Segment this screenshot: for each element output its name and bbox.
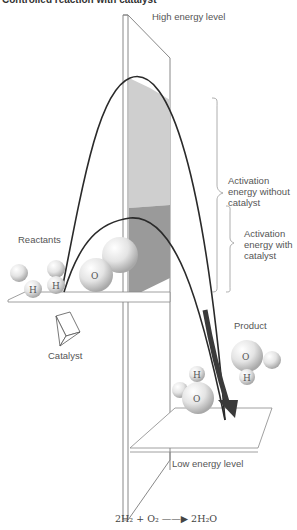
product-atom-o2: O: [242, 352, 249, 362]
low-energy-label: Low energy level: [172, 458, 243, 469]
product-plate: [130, 408, 272, 452]
product-atom-o1: O: [193, 394, 200, 404]
reactants-label: Reactants: [18, 234, 61, 245]
activation-without-label: Activation energy without catalyst: [228, 175, 290, 208]
high-energy-label: High energy level: [152, 11, 225, 22]
brace-with-catalyst: [226, 206, 234, 292]
catalyst-icon: [56, 312, 80, 346]
reactant-molecules: H H O: [10, 237, 138, 298]
equation-product: 2H₂O: [191, 513, 217, 524]
atom-o: O: [91, 271, 98, 281]
product-atom-h2: H: [243, 373, 251, 383]
atom-h2: H: [52, 281, 60, 291]
equation-reactants: 2H₂ + O₂: [115, 513, 159, 524]
chemical-equation: 2H₂ + O₂ ——▶ 2H₂O: [115, 513, 217, 524]
catalyst-label: Catalyst: [48, 350, 82, 361]
panel-tail: [128, 452, 170, 520]
product-label: Product: [234, 320, 267, 331]
product-atom-h1: H: [193, 370, 201, 380]
brace-without-catalyst: [212, 98, 223, 292]
atom-h1: H: [29, 285, 37, 295]
equation-arrow-icon: ——▶: [162, 513, 188, 524]
activation-with-label: Activation energy with catalyst: [244, 228, 293, 261]
activation-energy-diagram: H H O H O O H: [0, 0, 297, 530]
